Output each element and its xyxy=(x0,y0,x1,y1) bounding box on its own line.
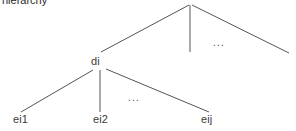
tree-edges-layer xyxy=(0,0,296,131)
edge-root-to-sibling-right xyxy=(192,5,289,53)
tree-node-di: di xyxy=(91,55,100,67)
tree-node-ei1: ei1 xyxy=(13,113,28,125)
edge-root-to-di xyxy=(101,5,189,52)
edge-di-to-eij xyxy=(106,69,209,112)
ellipsis-icon-bottom: ... xyxy=(128,92,140,103)
tree-node-eij: eij xyxy=(201,113,212,125)
ellipsis-icon-top: ... xyxy=(213,37,225,48)
diagram-canvas: hierarchy di ei1 ei2 eij ... ... xyxy=(0,0,296,131)
edge-di-to-ei1 xyxy=(21,70,93,112)
tree-node-ei2: ei2 xyxy=(93,113,108,125)
